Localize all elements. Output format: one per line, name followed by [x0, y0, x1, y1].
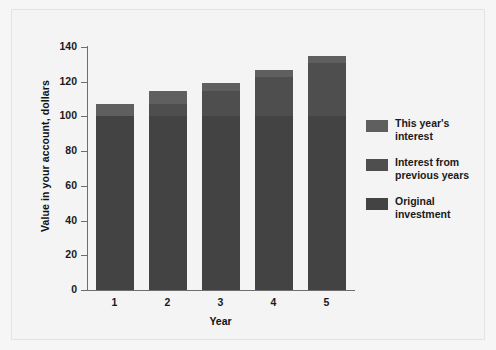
bar-segment[interactable] [308, 116, 346, 290]
legend-item[interactable]: This year'sinterest [366, 119, 491, 145]
legend-item[interactable]: Originalinvestment [366, 197, 491, 223]
chart-figure: Value in your account, dollars 020406080… [0, 0, 496, 350]
y-axis-tick-label: 100 [33, 110, 77, 121]
bar-segment[interactable] [255, 116, 293, 290]
y-axis-tick-label-wrap: 40 [22, 215, 77, 227]
x-axis-tick-label: 3 [201, 296, 241, 308]
legend-color-swatch [366, 159, 388, 171]
x-axis-tick-label: 4 [254, 296, 294, 308]
y-axis-tick-label-wrap: 60 [22, 180, 77, 192]
bar-segment[interactable] [308, 63, 346, 117]
bar-segment[interactable] [202, 91, 240, 116]
x-axis-line [87, 290, 355, 291]
bar-segment[interactable] [255, 77, 293, 116]
y-axis-tick-label-wrap: 140 [22, 41, 77, 53]
y-axis-tick-label-wrap: 120 [22, 76, 77, 88]
bar-segment[interactable] [255, 70, 293, 78]
chart-legend: This year'sinterestInterest fromprevious… [366, 119, 491, 236]
legend-item[interactable]: Interest fromprevious years [366, 158, 491, 184]
bar-segment[interactable] [308, 56, 346, 63]
y-axis-tick-label-wrap: 80 [22, 145, 77, 157]
y-axis-tick-label: 120 [33, 76, 77, 87]
y-axis-tick-label-wrap: 100 [22, 110, 77, 122]
bar-segment[interactable] [149, 104, 187, 116]
x-axis-tick-label: 2 [148, 296, 188, 308]
legend-color-swatch [366, 120, 388, 132]
x-axis-tick-label: 1 [95, 296, 135, 308]
legend-item-label: Interest fromprevious years [395, 156, 491, 182]
y-axis-tick-label: 40 [33, 215, 77, 226]
bar-segment[interactable] [96, 116, 134, 290]
plot-area [88, 47, 353, 290]
y-axis-tick-label: 20 [33, 249, 77, 260]
legend-color-swatch [366, 198, 388, 210]
x-axis-title: Year [88, 315, 353, 327]
bar-segment[interactable] [202, 83, 240, 91]
bar-segment[interactable] [202, 116, 240, 290]
legend-item-label: Originalinvestment [395, 195, 491, 221]
bar-segment[interactable] [149, 91, 187, 104]
y-axis-tick-label: 0 [33, 284, 77, 295]
y-axis-tick-label: 60 [33, 180, 77, 191]
y-axis-tick-label: 80 [33, 145, 77, 156]
y-axis-tick-label-wrap: 0 [22, 284, 77, 296]
x-axis-tick-label: 5 [307, 296, 347, 308]
y-axis-tick-label-wrap: 20 [22, 249, 77, 261]
legend-item-label: This year'sinterest [395, 117, 491, 143]
bar-segment[interactable] [96, 104, 134, 116]
y-axis-tick-label: 140 [33, 41, 77, 52]
bar-segment[interactable] [149, 116, 187, 290]
